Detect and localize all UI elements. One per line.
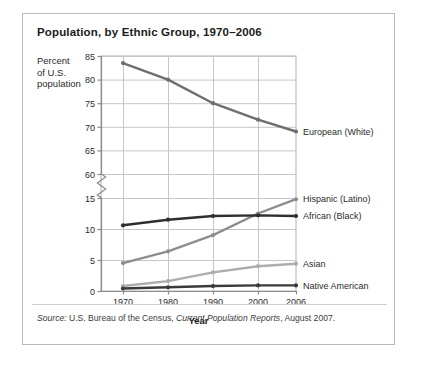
series-label: African (Black) [303,211,362,221]
data-point [121,286,125,290]
data-point [211,214,215,218]
series-label: Hispanic (Latino) [303,194,371,204]
y-axis-tick-label: 5 [90,256,95,266]
data-point [256,213,260,217]
plot-frame [101,56,296,291]
data-point [211,233,215,237]
data-point [211,270,215,274]
y-axis-tick-label: 0 [90,287,95,297]
data-point [294,197,298,201]
data-point [294,214,298,218]
source-text-a: U.S. Bureau of the Census, [67,313,176,323]
data-point [166,285,170,289]
data-point [294,283,298,287]
data-point [121,223,125,227]
series-label: Native American [303,281,369,291]
data-point [166,218,170,222]
data-point [256,283,260,287]
x-axis-tick-label: 2000 [248,297,268,307]
data-point [294,262,298,266]
data-point [256,264,260,268]
data-point [211,101,215,105]
y-axis-tick-label: 75 [85,99,95,109]
x-axis-tick-label: 2006 [286,297,306,307]
data-point [166,249,170,253]
x-axis-tick-label: 1990 [203,297,223,307]
source-divider [32,304,387,305]
data-point [121,61,125,65]
y-axis-tick-label: 70 [85,123,95,133]
figure-panel: Population, by Ethnic Group, 1970–2006 P… [22,13,395,345]
data-point [166,279,170,283]
data-point [166,78,170,82]
y-axis-tick-label: 80 [85,75,95,85]
x-axis-tick-label: 1980 [158,297,178,307]
y-axis-tick-label: 10 [85,225,95,235]
source-label: Source: [37,313,67,323]
y-axis-tick-label: 65 [85,146,95,156]
data-point [121,261,125,265]
data-point [256,118,260,122]
source-publication: Current Population Reports [176,313,280,323]
y-axis-tick-label: 85 [85,52,95,62]
data-point [294,129,298,133]
x-axis-tick-label: 1970 [113,297,133,307]
series-label: Asian [303,259,326,269]
line-chart: 85807570656015105019701980199020002006Ye… [23,14,396,346]
data-point [211,284,215,288]
source-text-b: , August 2007. [280,313,335,323]
y-axis-tick-label: 60 [85,170,95,180]
series-label: European (White) [303,127,374,137]
y-axis-tick-label: 15 [85,194,95,204]
source-note: Source: U.S. Bureau of the Census, Curre… [37,313,335,323]
